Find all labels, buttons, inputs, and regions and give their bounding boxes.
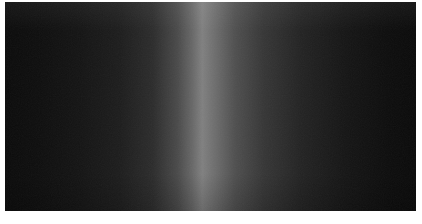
- light-band-photo: [5, 2, 416, 211]
- light-band-gradient: [5, 2, 416, 211]
- page-background: [0, 0, 422, 224]
